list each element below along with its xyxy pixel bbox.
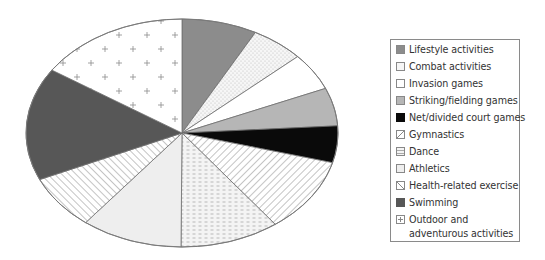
swatch-icon <box>396 147 405 156</box>
legend-label-line2: adventurous activities <box>409 228 513 239</box>
legend-label: Invasion games <box>409 78 483 89</box>
swatch-icon <box>396 96 405 105</box>
legend-label: Net/divided court games <box>409 112 525 123</box>
legend-item-dance: Dance <box>396 146 439 157</box>
swatch-icon <box>396 164 405 173</box>
legend-item-striking: Striking/fielding games <box>396 95 518 106</box>
legend-label: Combat activities <box>409 61 491 72</box>
legend-item-invasion: Invasion games <box>396 78 483 89</box>
chart-legend: Lifestyle activities Combat activities I… <box>390 39 520 242</box>
swatch-icon <box>396 79 405 88</box>
legend-item-swimming: Swimming <box>396 197 458 208</box>
swatch-icon <box>396 62 405 71</box>
swatch-icon <box>396 45 405 54</box>
legend-label: Health-related exercise <box>409 180 518 191</box>
legend-item-gymnastics: Gymnastics <box>396 129 464 140</box>
legend-label: Striking/fielding games <box>409 95 518 106</box>
legend-item-net: Net/divided court games <box>396 112 525 123</box>
legend-item-lifestyle: Lifestyle activities <box>396 44 494 55</box>
legend-label: Dance <box>409 146 439 157</box>
legend-item-outdoor: Outdoor and adventurous activities <box>396 214 513 239</box>
swatch-icon <box>396 130 405 139</box>
swatch-icon <box>396 113 405 122</box>
legend-label: Swimming <box>409 197 458 208</box>
legend-item-combat: Combat activities <box>396 61 491 72</box>
legend-label: Athletics <box>409 163 450 174</box>
legend-label: Outdoor and <box>409 214 513 225</box>
legend-item-health: Health-related exercise <box>396 180 518 191</box>
swatch-icon <box>396 215 405 224</box>
pie-slices <box>26 19 338 247</box>
legend-label: Lifestyle activities <box>409 44 494 55</box>
legend-label: Gymnastics <box>409 129 464 140</box>
swatch-icon <box>396 181 405 190</box>
legend-item-athletics: Athletics <box>396 163 450 174</box>
swatch-icon <box>396 198 405 207</box>
